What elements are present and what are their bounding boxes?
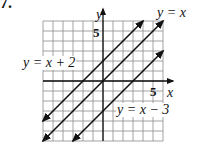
y-tick-5: 5	[93, 26, 100, 39]
x-tick-5: 5	[150, 85, 157, 98]
y-axis-label: y	[96, 8, 102, 22]
line-label-y-eq-x: y = x	[157, 6, 186, 20]
graph-plot	[0, 0, 199, 160]
x-axis-label: x	[167, 86, 173, 100]
line-label-y-eq-x-plus-2: y = x + 2	[22, 56, 76, 70]
line-label-y-eq-x-minus-3: y = x − 3	[116, 103, 170, 117]
